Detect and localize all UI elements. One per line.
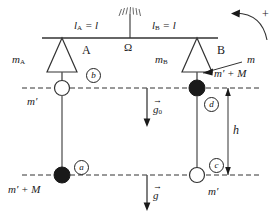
mass-lower-left-label: m′ + M bbox=[8, 184, 40, 195]
mass-open-circle-right-lower bbox=[190, 168, 205, 183]
knife-edge-triangle-b bbox=[182, 38, 212, 72]
g-symbol: g bbox=[153, 190, 162, 201]
marker-b: b bbox=[86, 68, 101, 83]
mass-upper-right-label: m′ + M bbox=[214, 68, 246, 79]
mass-upper-left-label: m′ bbox=[27, 96, 37, 107]
g0-subscript: 0 bbox=[159, 108, 163, 116]
pivot-omega-label: Ω bbox=[124, 42, 132, 53]
gravity-g0-arrow bbox=[144, 88, 151, 127]
g-vector-label: → g bbox=[153, 183, 162, 201]
gravity-g-arrow bbox=[144, 175, 151, 211]
marker-c: c bbox=[209, 158, 224, 173]
marker-a: a bbox=[74, 160, 89, 175]
physics-diagram: lA = l lB = l Ω A B mA mB m′ m′ + M m m′… bbox=[0, 0, 278, 220]
rotation-positive-sign: + bbox=[262, 8, 269, 20]
g0-symbol: g0 bbox=[153, 104, 162, 116]
g0-vector-label: → g0 bbox=[153, 97, 162, 116]
mass-lower-right-label: m′ bbox=[208, 186, 218, 197]
mass-pointer-label: m bbox=[247, 54, 255, 65]
diagram-canvas bbox=[0, 0, 278, 220]
knife-edge-triangle-a bbox=[47, 38, 77, 72]
mass-a-label: mA bbox=[12, 54, 25, 66]
height-dimension-line bbox=[225, 88, 231, 175]
mass-filled-circle-right-upper bbox=[189, 80, 205, 96]
mass-filled-circle-left-lower bbox=[54, 167, 70, 183]
mass-b-label: mB bbox=[155, 54, 168, 66]
height-label: h bbox=[233, 124, 239, 136]
knife-edge-b-letter: B bbox=[217, 44, 225, 56]
left-arm-length-label: lA = l bbox=[74, 20, 98, 32]
mass-open-circle-left-upper bbox=[55, 81, 70, 96]
right-arm-length-label: lB = l bbox=[152, 20, 176, 32]
knife-edge-a-letter: A bbox=[82, 44, 91, 56]
marker-d: d bbox=[204, 97, 219, 112]
